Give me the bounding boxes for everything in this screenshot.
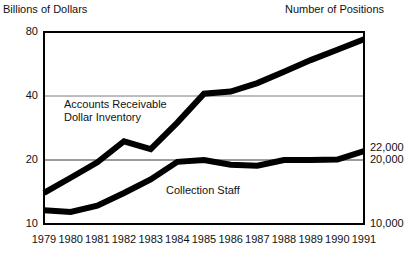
- y-axis-tick-label-left: 10: [8, 218, 38, 229]
- y-axis-tick-label-right: 22,000: [370, 142, 404, 153]
- y-axis-tick-label-left: 20: [8, 154, 38, 165]
- right-axis-title: Number of Positions: [285, 3, 384, 15]
- y-axis-tick-label-left: 80: [8, 26, 38, 37]
- left-axis-title: Billions of Dollars: [3, 3, 87, 15]
- chart-figure: Billions of Dollars Number of Positions …: [0, 0, 413, 253]
- series-label-accounts-receivable: Accounts Receivable Dollar Inventory: [64, 98, 167, 124]
- y-axis-tick-label-right: 10,000: [370, 218, 404, 229]
- series-label-collection-staff: Collection Staff: [166, 184, 240, 197]
- plot-area: [0, 0, 413, 253]
- y-axis-tick-label-right: 20,000: [370, 154, 404, 165]
- x-axis-tick-label: 1991: [348, 234, 380, 245]
- series-label-ar-line2: Dollar Inventory: [64, 111, 167, 124]
- series-label-ar-line1: Accounts Receivable: [64, 98, 167, 111]
- y-axis-tick-label-left: 40: [8, 90, 38, 101]
